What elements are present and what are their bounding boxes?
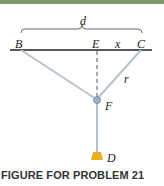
label-E: E xyxy=(92,38,99,50)
label-r: r xyxy=(124,73,129,85)
cable-CF xyxy=(97,50,141,99)
pulley-icon xyxy=(94,97,101,104)
label-D: D xyxy=(107,152,116,164)
cable-BF xyxy=(21,50,96,99)
weight-icon xyxy=(91,152,103,160)
label-B: B xyxy=(15,38,22,50)
label-x: x xyxy=(115,38,120,50)
figure-caption: FIGURE FOR PROBLEM 21 xyxy=(1,169,144,181)
label-C: C xyxy=(137,38,145,50)
label-d: d xyxy=(80,15,86,27)
label-F: F xyxy=(105,100,112,112)
